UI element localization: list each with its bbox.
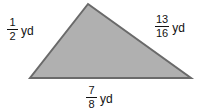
triangle-figure: 1 2 yd 13 16 yd 7 8 yd xyxy=(0,0,205,111)
fraction-bottom-denominator: 8 xyxy=(87,98,95,110)
fraction-left-numerator: 1 xyxy=(8,17,16,29)
fraction-right-numerator: 13 xyxy=(155,14,169,26)
side-label-bottom: 7 8 yd xyxy=(86,85,113,110)
fraction-bottom: 7 8 xyxy=(86,85,97,110)
fraction-right: 13 16 xyxy=(155,14,169,39)
unit-label-left: yd xyxy=(21,25,34,37)
fraction-bottom-numerator: 7 xyxy=(87,85,95,97)
unit-label-bottom: yd xyxy=(100,93,113,105)
fraction-left: 1 2 xyxy=(7,17,18,42)
side-label-right: 13 16 yd xyxy=(155,14,185,39)
fraction-right-denominator: 16 xyxy=(155,27,169,39)
fraction-left-denominator: 2 xyxy=(8,30,16,42)
side-label-left: 1 2 yd xyxy=(7,17,34,42)
unit-label-right: yd xyxy=(172,22,185,34)
